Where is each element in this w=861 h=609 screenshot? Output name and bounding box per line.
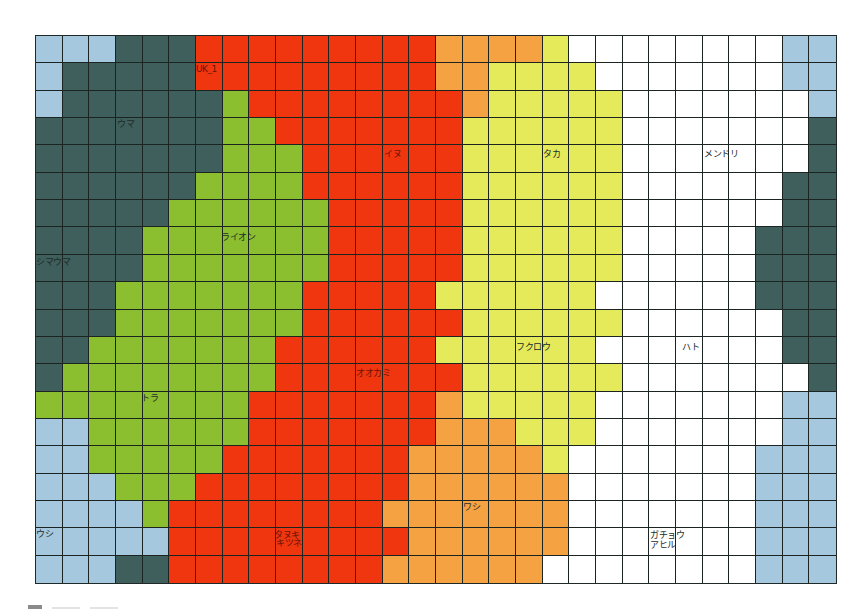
som-cell [116,364,143,391]
som-cell [303,446,330,473]
som-cell [809,173,836,200]
som-cell [596,556,623,583]
som-cell [756,392,783,419]
som-cell [489,392,516,419]
som-cell [436,474,463,501]
som-cell [196,173,223,200]
som-cell [89,91,116,118]
som-cell [463,337,490,364]
som-cell [676,556,703,583]
som-cell [649,173,676,200]
som-cell [329,392,356,419]
som-cell [249,501,276,528]
som-cell [783,446,810,473]
som-cell [676,36,703,63]
som-cell [409,501,436,528]
som-cell [649,36,676,63]
som-cell [649,446,676,473]
som-cell [63,36,90,63]
som-cell [543,419,570,446]
som-cell [249,282,276,309]
som-cell [169,282,196,309]
som-cell [543,255,570,282]
som-cell [63,310,90,337]
som-cell [303,501,330,528]
som-cell [356,337,383,364]
som-cell [169,310,196,337]
som-cell [729,556,756,583]
som-cell [249,419,276,446]
som-cell [303,474,330,501]
som-cell [196,145,223,172]
som-cell [63,173,90,200]
som-cell [223,556,250,583]
som-cell [703,36,730,63]
som-cell [409,474,436,501]
som-cell [249,337,276,364]
som-cell [303,145,330,172]
som-cell [463,63,490,90]
som-cell [249,310,276,337]
som-cell [489,364,516,391]
som-cell [569,200,596,227]
som-cell [596,446,623,473]
som-cell [223,227,250,254]
som-cell [703,282,730,309]
som-cell [409,255,436,282]
som-cell [703,392,730,419]
som-cell [809,419,836,446]
som-cell [196,392,223,419]
som-cell [196,528,223,555]
som-cell [223,173,250,200]
som-cell [143,63,170,90]
som-cell [383,474,410,501]
som-cell [409,446,436,473]
som-cell [169,145,196,172]
som-cell [223,200,250,227]
som-cell [143,501,170,528]
som-cell [649,419,676,446]
som-cell [783,145,810,172]
legend-swatch [28,605,42,609]
som-cell [463,419,490,446]
som-cell [143,200,170,227]
som-cell [223,36,250,63]
som-cell [36,63,63,90]
som-cell [116,200,143,227]
som-cell [649,63,676,90]
som-cell [756,474,783,501]
som-cell [809,282,836,309]
som-cell [63,145,90,172]
som-cell [36,91,63,118]
som-cell [756,556,783,583]
som-cell [223,310,250,337]
som-cell [89,173,116,200]
som-cell [516,63,543,90]
som-cell [303,392,330,419]
som-cell [489,255,516,282]
som-cell [809,63,836,90]
som-cell [676,501,703,528]
som-cell [676,227,703,254]
som-cell [516,145,543,172]
som-cell [516,419,543,446]
som-cell [809,474,836,501]
som-cell [63,282,90,309]
som-cell [489,337,516,364]
som-cell [276,556,303,583]
som-cell [249,227,276,254]
som-cell [89,556,116,583]
som-cell [329,364,356,391]
som-cell [409,36,436,63]
som-cell [516,227,543,254]
som-cell [809,200,836,227]
som-cell [89,200,116,227]
som-cell [783,227,810,254]
som-cell [116,36,143,63]
som-cell [383,392,410,419]
som-cell [516,310,543,337]
som-cell [649,364,676,391]
som-cell [623,364,650,391]
som-cell [329,501,356,528]
som-cell [383,337,410,364]
